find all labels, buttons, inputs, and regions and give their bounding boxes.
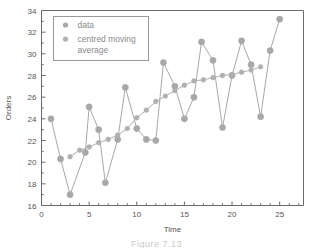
data-point <box>267 47 273 53</box>
data-point <box>96 140 101 145</box>
data-point <box>87 145 92 150</box>
y-tick-label: 32 <box>28 28 37 37</box>
data-point <box>125 126 130 131</box>
y-tick-label: 24 <box>28 115 37 124</box>
data-point <box>182 83 187 88</box>
data-point <box>181 116 187 122</box>
data-point <box>230 72 235 77</box>
data-point <box>219 124 225 130</box>
legend-label: centred moving <box>78 34 136 44</box>
data-point <box>211 75 216 80</box>
data-point <box>258 114 264 120</box>
data-point <box>239 70 244 75</box>
data-point <box>144 108 149 113</box>
data-point <box>248 62 254 68</box>
data-point <box>106 137 111 142</box>
data-point <box>143 136 149 142</box>
legend-label: data <box>78 20 95 30</box>
data-point <box>220 73 225 78</box>
chart-legend: datacentred movingaverage <box>54 17 149 61</box>
data-point <box>86 104 92 110</box>
data-point <box>249 68 254 73</box>
y-tick-label: 20 <box>28 158 37 167</box>
data-point <box>210 57 216 63</box>
data-point <box>67 192 73 198</box>
data-point <box>96 127 102 133</box>
data-point <box>163 94 168 99</box>
x-tick-label: 15 <box>180 210 189 219</box>
data-point <box>134 115 139 120</box>
y-tick-label: 34 <box>28 7 37 16</box>
data-point <box>277 16 283 22</box>
x-axis-tick-labels: 0510152025 <box>39 210 284 219</box>
y-axis-tick-labels: 16182022242628303234 <box>28 7 37 211</box>
x-tick-label: 5 <box>87 210 92 219</box>
data-point <box>57 156 63 162</box>
y-tick-label: 28 <box>28 72 37 81</box>
data-point <box>160 59 166 65</box>
x-tick-label: 25 <box>275 210 284 219</box>
x-axis-ticks <box>42 202 299 206</box>
data-point <box>68 154 73 159</box>
data-point <box>48 116 54 122</box>
y-tick-label: 30 <box>28 50 37 59</box>
figure-caption: Figure 7.13 <box>0 239 313 248</box>
x-tick-label: 20 <box>228 210 237 219</box>
data-point <box>153 99 158 104</box>
data-point <box>258 64 263 69</box>
data-point <box>134 125 140 131</box>
data-point <box>102 180 108 186</box>
data-point <box>122 84 128 90</box>
data-point <box>191 94 197 100</box>
y-tick-label: 26 <box>28 93 37 102</box>
y-tick-label: 16 <box>28 202 37 211</box>
data-point <box>153 137 159 143</box>
data-point <box>198 39 204 45</box>
data-point <box>238 38 244 44</box>
data-point <box>115 133 120 138</box>
x-tick-label: 0 <box>39 210 44 219</box>
data-point <box>77 148 82 153</box>
y-tick-label: 18 <box>28 180 37 189</box>
legend-marker <box>63 22 68 27</box>
y-axis-ticks <box>42 11 46 206</box>
data-point <box>172 88 177 93</box>
data-point <box>82 149 88 155</box>
data-point <box>201 77 206 82</box>
x-tick-label: 10 <box>132 210 141 219</box>
data-point <box>192 79 197 84</box>
y-axis-label: Orders <box>4 96 13 120</box>
x-axis-label: Time <box>164 225 182 234</box>
legend-marker <box>63 36 68 41</box>
legend-label: average <box>78 45 109 55</box>
series-centred-moving-average <box>68 64 263 159</box>
y-tick-label: 22 <box>28 137 37 146</box>
